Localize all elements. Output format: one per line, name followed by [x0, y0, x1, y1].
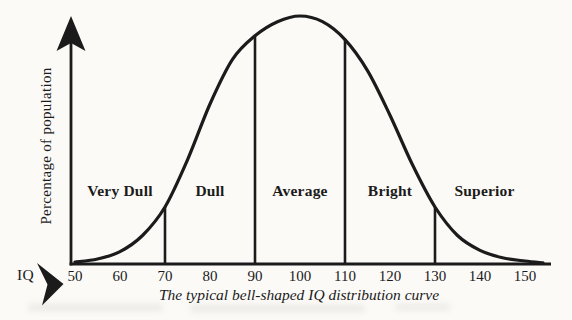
x-tick-label-130: 130 [424, 268, 447, 285]
region-label-average: Average [272, 182, 327, 200]
iq-distribution-figure: Percentage of population IQ Very DullDul… [0, 0, 572, 320]
figure-caption: The typical bell-shaped IQ distribution … [159, 286, 439, 304]
region-label-dull: Dull [195, 182, 224, 200]
x-tick-label-80: 80 [203, 268, 218, 285]
scan-artifact [395, 304, 450, 310]
region-label-superior: Superior [454, 182, 514, 200]
x-axis-arrow-icon [37, 263, 64, 306]
scan-artifact [190, 305, 365, 312]
x-tick-label-90: 90 [248, 268, 263, 285]
x-tick-label-150: 150 [514, 268, 537, 285]
x-tick-label-120: 120 [379, 268, 402, 285]
x-tick-label-100: 100 [289, 268, 312, 285]
x-tick-label-110: 110 [334, 268, 356, 285]
x-tick-label-60: 60 [113, 268, 128, 285]
x-tick-label-70: 70 [158, 268, 173, 285]
x-axis-label: IQ [17, 266, 34, 284]
x-tick-label-140: 140 [469, 268, 492, 285]
scan-artifact [28, 304, 163, 311]
region-label-bright: Bright [368, 182, 412, 200]
region-label-very-dull: Very Dull [87, 182, 152, 200]
x-tick-label-50: 50 [68, 268, 83, 285]
bell-curve [75, 16, 543, 263]
y-axis-label: Percentage of population [38, 67, 55, 224]
